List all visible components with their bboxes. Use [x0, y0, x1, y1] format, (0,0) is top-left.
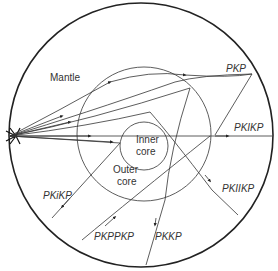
- label-mantle: Mantle: [50, 72, 80, 83]
- label-inner-core-2: core: [136, 146, 156, 157]
- label-pkkp: PKKP: [155, 231, 182, 242]
- label-pkikp: PKIKP: [234, 122, 264, 133]
- label-pkppkp: PKPPKP: [94, 231, 134, 242]
- label-pkiikp: PKIIKP: [222, 183, 255, 194]
- label-outer-core-2: core: [117, 176, 137, 187]
- seismic-ray-diagram: Mantle Outer core Inner core PKP PKIKP P…: [0, 0, 278, 271]
- label-outer-core-1: Outer: [113, 164, 139, 175]
- label-pkp: PKP: [226, 63, 246, 74]
- ray-pkp: [10, 74, 252, 136]
- label-inner-core-1: Inner: [136, 134, 159, 145]
- ray-pkikp-reflected: [10, 136, 120, 218]
- ray-pkp-branch: [10, 74, 252, 136]
- label-pkikp-reflected: PKiKP: [43, 190, 72, 201]
